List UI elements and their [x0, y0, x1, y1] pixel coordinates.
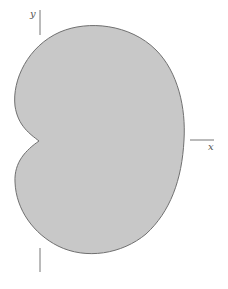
- cardioid-diagram: y x: [0, 0, 228, 289]
- x-axis-label: x: [208, 141, 214, 152]
- cardioid-region: [15, 26, 185, 254]
- y-axis-label: y: [29, 8, 36, 19]
